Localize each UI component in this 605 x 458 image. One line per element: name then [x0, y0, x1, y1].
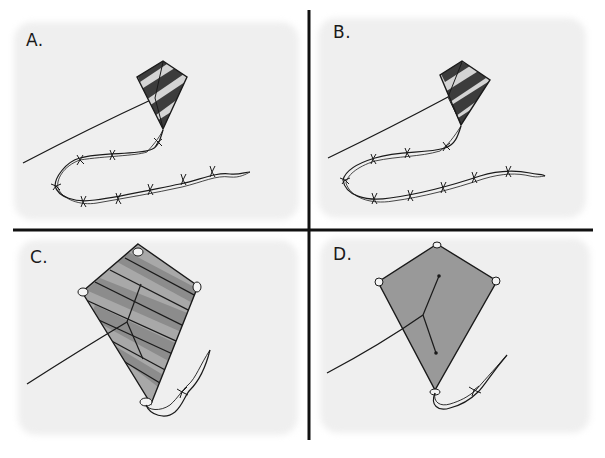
kite-a	[23, 55, 250, 207]
kite-illustration	[0, 0, 605, 458]
panel-d-label: D.	[333, 244, 353, 264]
panel-b-label: B.	[333, 22, 351, 42]
panel-c-label: C.	[30, 247, 48, 267]
kite-b	[328, 55, 545, 204]
kite-a-string	[23, 98, 155, 163]
kite-d	[327, 242, 507, 409]
kite-c	[27, 240, 210, 416]
kite-c-string	[27, 322, 127, 384]
panel-a-label: A.	[26, 30, 44, 50]
kite-b-tail	[343, 126, 545, 199]
kite-a-tail	[55, 130, 250, 201]
kite-b-string	[328, 97, 448, 158]
